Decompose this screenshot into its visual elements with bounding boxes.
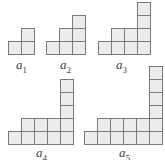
unit-square	[60, 42, 73, 55]
unit-square	[61, 119, 74, 132]
unit-square	[125, 42, 138, 55]
unit-square	[9, 132, 22, 145]
unit-square	[124, 132, 137, 145]
unit-square	[35, 132, 48, 145]
unit-square	[111, 132, 124, 145]
unit-square	[73, 29, 86, 42]
unit-square	[112, 29, 125, 42]
unit-square	[47, 42, 60, 55]
unit-square	[98, 119, 111, 132]
unit-square	[60, 29, 73, 42]
label-a3: a3	[116, 58, 127, 75]
unit-square	[150, 93, 163, 106]
unit-square	[9, 42, 22, 55]
label-a1: a1	[16, 58, 27, 75]
unit-square	[138, 3, 151, 16]
figure-a1	[9, 29, 35, 55]
unit-square	[22, 29, 35, 42]
unit-square	[61, 132, 74, 145]
label-a4: a4	[36, 146, 47, 160]
unit-square	[48, 119, 61, 132]
unit-square	[73, 42, 86, 55]
unit-square	[85, 132, 98, 145]
unit-square	[124, 119, 137, 132]
unit-square	[138, 29, 151, 42]
unit-square	[61, 106, 74, 119]
unit-square	[99, 42, 112, 55]
unit-square	[98, 132, 111, 145]
unit-square	[150, 119, 163, 132]
unit-square	[150, 67, 163, 80]
label-a2: a2	[60, 58, 71, 75]
unit-square	[150, 132, 163, 145]
unit-square	[35, 119, 48, 132]
label-a5: a5	[119, 146, 130, 160]
unit-square	[125, 29, 138, 42]
figure-canvas: a1 a2 a3 a4 a5	[0, 0, 165, 160]
unit-square	[112, 42, 125, 55]
unit-square	[137, 119, 150, 132]
unit-square	[138, 16, 151, 29]
unit-square	[137, 132, 150, 145]
unit-square	[73, 16, 86, 29]
unit-square	[61, 93, 74, 106]
square-figures	[0, 0, 165, 160]
unit-square	[111, 119, 124, 132]
unit-square	[150, 106, 163, 119]
unit-square	[61, 80, 74, 93]
unit-square	[22, 42, 35, 55]
figure-a4	[9, 80, 74, 145]
figure-a2	[47, 16, 86, 55]
unit-square	[48, 132, 61, 145]
figure-a3	[99, 3, 151, 55]
unit-square	[22, 119, 35, 132]
unit-square	[138, 42, 151, 55]
unit-square	[22, 132, 35, 145]
unit-square	[150, 80, 163, 93]
figure-a5	[85, 67, 163, 145]
